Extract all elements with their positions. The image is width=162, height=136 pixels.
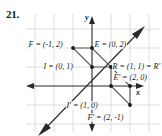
label-R: R = (1, 1) = R' <box>112 62 161 71</box>
point-F <box>71 46 75 50</box>
label-E-prime: E' = (2, 0) <box>113 73 147 82</box>
label-F-prime: F' = (2, -1) <box>87 113 124 122</box>
label-I: I = (0, 1) <box>43 62 73 71</box>
x-axis-label: x <box>136 89 140 97</box>
point-I <box>90 65 94 69</box>
point-F-prime <box>128 103 132 107</box>
point-I-prime <box>109 84 113 88</box>
y-axis-up-arrow <box>89 16 95 24</box>
problem-figure: 21. <box>0 0 162 136</box>
y-axis-label: y <box>85 14 89 22</box>
y-axis-down-arrow <box>89 124 95 132</box>
x-axis-left-arrow <box>26 83 34 89</box>
point-E-prime <box>128 84 132 88</box>
label-E: E = (0, 2) <box>94 40 127 49</box>
label-F: F = (-1, 2) <box>28 40 63 49</box>
label-I-prime: I' = (1, 0) <box>66 101 98 110</box>
